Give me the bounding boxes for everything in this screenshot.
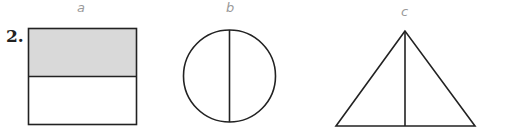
figure-a-rectangle [28, 28, 137, 125]
shaded-half [28, 28, 137, 76]
figure-c-triangle [336, 31, 475, 126]
figures-canvas [0, 0, 516, 129]
figure-b-circle [184, 30, 276, 122]
